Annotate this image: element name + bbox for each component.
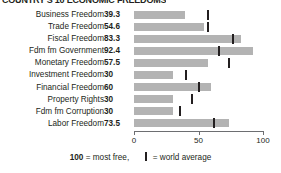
chart-rows: Business Freedom39.3Trade Freedom54.6Fis… <box>0 9 281 130</box>
value-bar <box>134 23 204 31</box>
row-value-label: 54.6 <box>104 21 130 32</box>
axis-tick-label: 100 <box>248 136 278 145</box>
axis-tick-label: 0 <box>119 136 149 145</box>
row-category-label: Monetary Freedom <box>0 57 104 68</box>
chart-row: Monetary Freedom57.5 <box>0 57 281 69</box>
row-plot-area <box>134 94 263 106</box>
value-bar <box>134 83 211 91</box>
row-value-label: 92.4 <box>104 45 130 56</box>
row-value-label: 39.3 <box>104 9 130 20</box>
value-bar <box>134 95 173 103</box>
economic-freedoms-chart: COUNTRY'S 10 ECONOMIC FREEDOMS Business … <box>0 0 281 173</box>
row-value-label: 60 <box>104 82 130 93</box>
value-bar <box>134 35 241 43</box>
row-category-label: Fiscal Freedom <box>0 33 104 44</box>
row-value-label: 57.5 <box>104 57 130 68</box>
axis-tick <box>134 131 135 135</box>
chart-row: Fiscal Freedom83.3 <box>0 33 281 45</box>
row-plot-area <box>134 82 263 94</box>
row-value-label: 30 <box>104 94 130 105</box>
axis-tick <box>199 131 200 135</box>
row-plot-area <box>134 118 263 130</box>
row-category-label: Property Rights <box>0 94 104 105</box>
chart-row: Financial Freedom60 <box>0 82 281 94</box>
legend-most-free-text: = most free, <box>86 153 129 162</box>
row-plot-area <box>134 33 263 45</box>
row-value-label: 30 <box>104 106 130 117</box>
row-plot-area <box>134 45 263 57</box>
chart-title: COUNTRY'S 10 ECONOMIC FREEDOMS <box>2 0 166 4</box>
chart-row: Labor Freedom73.5 <box>0 118 281 130</box>
row-value-label: 30 <box>104 69 130 80</box>
row-plot-area <box>134 21 263 33</box>
value-bar <box>134 47 253 55</box>
row-category-label: Trade Freedom <box>0 21 104 32</box>
value-bar <box>134 11 185 19</box>
row-plot-area <box>134 69 263 81</box>
world-average-marker-icon <box>207 22 209 32</box>
world-average-marker-icon <box>213 118 215 128</box>
world-average-marker-icon <box>228 58 230 68</box>
row-category-label: Fdm fm Corruption <box>0 106 104 117</box>
chart-row: Fdm fm Corruption30 <box>0 106 281 118</box>
world-average-marker-icon <box>207 10 209 20</box>
row-plot-area <box>134 57 263 69</box>
axis-tick-label: 50 <box>184 136 214 145</box>
legend-world-average-text: = world average <box>153 153 211 162</box>
world-average-marker-icon <box>185 70 187 80</box>
world-average-marker-icon <box>232 34 234 44</box>
world-average-marker-icon <box>198 82 200 92</box>
chart-row: Fdm fm Government92.4 <box>0 45 281 57</box>
row-category-label: Fdm fm Government <box>0 45 104 56</box>
value-bar <box>134 107 173 115</box>
world-average-marker-icon <box>191 94 193 104</box>
value-bar <box>134 71 173 79</box>
axis-tick <box>263 131 264 135</box>
chart-row: Property Rights30 <box>0 94 281 106</box>
chart-row: Trade Freedom54.6 <box>0 21 281 33</box>
chart-row: Business Freedom39.3 <box>0 9 281 21</box>
legend-most-free-value: 100 <box>70 153 84 162</box>
chart-legend: 100 = most free, = world average <box>0 152 281 163</box>
world-average-marker-icon <box>179 106 181 116</box>
chart-row: Investment Freedom30 <box>0 69 281 81</box>
row-plot-area <box>134 9 263 21</box>
row-category-label: Business Freedom <box>0 9 104 20</box>
row-category-label: Investment Freedom <box>0 69 104 80</box>
row-value-label: 73.5 <box>104 118 130 129</box>
value-bar <box>134 59 208 67</box>
row-value-label: 83.3 <box>104 33 130 44</box>
row-category-label: Labor Freedom <box>0 118 104 129</box>
row-category-label: Financial Freedom <box>0 82 104 93</box>
world-average-marker-icon <box>145 152 147 161</box>
row-plot-area <box>134 106 263 118</box>
world-average-marker-icon <box>218 46 220 56</box>
